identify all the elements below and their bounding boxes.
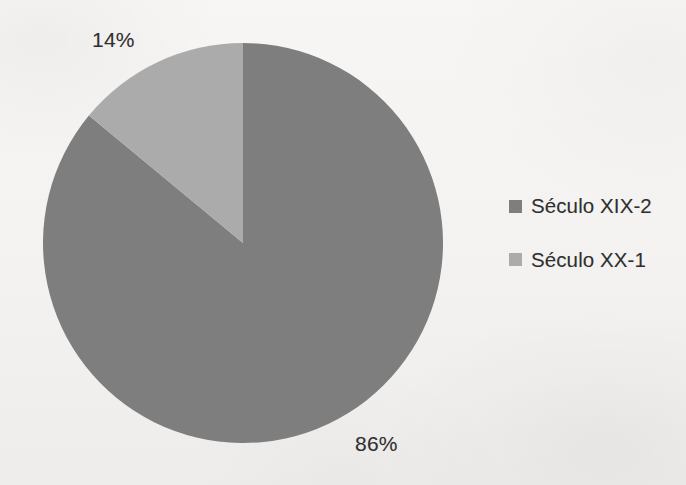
legend-label-seculo-xx-1: Século XX-1 bbox=[531, 250, 646, 271]
legend-swatch-icon bbox=[509, 253, 522, 266]
legend-item-seculo-xx-1[interactable]: Século XX-1 bbox=[509, 250, 652, 271]
chart-legend: Século XIX-2 Século XX-1 bbox=[509, 196, 652, 270]
pie-svg bbox=[43, 43, 443, 443]
legend-label-seculo-xix-2: Século XIX-2 bbox=[531, 196, 652, 217]
legend-swatch-icon bbox=[509, 200, 522, 213]
legend-item-seculo-xix-2[interactable]: Século XIX-2 bbox=[509, 196, 652, 217]
pie-chart: 14% 86% Século XIX-2 Século XX-1 bbox=[0, 0, 686, 485]
pie-label-86-percent: 86% bbox=[355, 432, 398, 456]
pie-label-14-percent: 14% bbox=[92, 28, 135, 52]
